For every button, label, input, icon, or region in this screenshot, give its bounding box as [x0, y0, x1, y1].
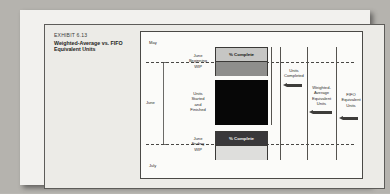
bracket-units-completed-left	[271, 47, 272, 125]
bar-beginning-wip-remaining-segment	[216, 61, 267, 76]
bracket-weighted-average-right	[336, 47, 337, 160]
arrow-shaft	[287, 84, 302, 86]
timeline-axis	[163, 62, 164, 144]
label-june-beginning-wip: June Beginning WIP	[183, 53, 213, 69]
bar-beginning-wip-complete-segment: % Complete	[216, 48, 267, 61]
exhibit-title: Weighted-Average vs. FIFO Equivalent Uni…	[54, 40, 136, 53]
bracket-units-completed-right	[280, 47, 281, 160]
arrow-fifo	[339, 116, 358, 121]
arrow-units-completed	[283, 83, 302, 88]
bar-ending-wip: % Complete	[215, 131, 268, 160]
bar-beginning-wip: % Complete	[215, 47, 268, 76]
bar-ending-wip-complete-label: % Complete	[229, 136, 254, 141]
arrow-weighted-average	[309, 110, 332, 115]
bar-ending-wip-complete-segment: % Complete	[216, 132, 267, 145]
bar-units-started-and-finished	[215, 80, 268, 125]
scanned-page-background: EXHIBIT 6.13 Weighted-Average vs. FIFO E…	[0, 0, 390, 193]
label-units-started-finished: Units Started and Finished	[183, 91, 213, 113]
timeline-label-may: May	[149, 40, 169, 45]
bar-beginning-wip-complete-label: % Complete	[229, 52, 254, 57]
exhibit-paper: EXHIBIT 6.13 Weighted-Average vs. FIFO E…	[20, 10, 370, 185]
label-june-ending-wip: June Ending WIP	[183, 136, 213, 152]
timeline-label-july: July	[149, 163, 169, 168]
exhibit-caption: EXHIBIT 6.13 Weighted-Average vs. FIFO E…	[54, 32, 136, 53]
bar-ending-wip-remaining-segment	[216, 145, 267, 160]
equivalent-units-diagram: May June July June Beginning WIP Units S…	[140, 31, 363, 179]
arrow-shaft	[313, 111, 332, 113]
label-fifo-equivalent: FIFO Equivalent Units	[340, 92, 362, 108]
exhibit-number: EXHIBIT 6.13	[54, 32, 136, 38]
label-weighted-average: Weighted- Average Equivalent Units	[307, 85, 336, 107]
arrow-shaft	[343, 117, 358, 119]
label-units-completed: Units Completed	[282, 68, 306, 79]
